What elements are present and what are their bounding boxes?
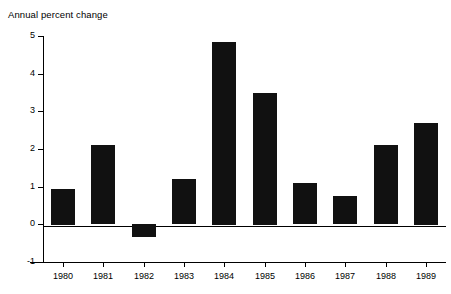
x-axis-label: 1989 bbox=[406, 271, 446, 281]
bar bbox=[333, 196, 357, 224]
x-axis-tick bbox=[386, 262, 387, 267]
x-axis-tick bbox=[305, 262, 306, 267]
y-axis-tick bbox=[38, 224, 43, 225]
y-axis-tick bbox=[38, 36, 43, 37]
bar bbox=[374, 145, 398, 224]
x-axis-label: 1985 bbox=[245, 271, 285, 281]
x-axis-tick bbox=[144, 262, 145, 267]
y-axis-label: 3 bbox=[10, 106, 35, 115]
x-axis-tick bbox=[345, 262, 346, 267]
x-axis-label: 1982 bbox=[124, 271, 164, 281]
x-axis-label: 1983 bbox=[164, 271, 204, 281]
x-axis-label: 1984 bbox=[204, 271, 244, 281]
bar bbox=[91, 145, 115, 224]
bar bbox=[51, 189, 75, 225]
y-axis-tick bbox=[38, 111, 43, 112]
x-axis-label: 1980 bbox=[43, 271, 83, 281]
x-axis-tick bbox=[265, 262, 266, 267]
y-axis-label: 1 bbox=[10, 182, 35, 191]
x-axis-tick bbox=[103, 262, 104, 267]
x-axis-tick bbox=[426, 262, 427, 267]
bar bbox=[132, 224, 156, 237]
bar bbox=[414, 123, 438, 225]
y-axis-tick bbox=[38, 149, 43, 150]
y-axis-tick bbox=[38, 74, 43, 75]
y-axis-label: 5 bbox=[10, 31, 35, 40]
x-axis-label: 1981 bbox=[83, 271, 123, 281]
bar bbox=[172, 179, 196, 224]
x-axis-tick bbox=[184, 262, 185, 267]
y-axis-label: 2 bbox=[10, 144, 35, 153]
bar bbox=[212, 42, 236, 225]
bar bbox=[293, 183, 317, 224]
chart-title: Annual percent change bbox=[8, 9, 108, 20]
x-axis-tick bbox=[224, 262, 225, 267]
x-axis-tick bbox=[63, 262, 64, 267]
x-axis-label: 1988 bbox=[366, 271, 406, 281]
y-axis-tick bbox=[38, 262, 43, 263]
y-axis-label: 0 bbox=[10, 219, 35, 228]
y-axis-label: -1 bbox=[10, 257, 35, 266]
y-axis-label: 4 bbox=[10, 69, 35, 78]
category-axis-line bbox=[30, 262, 446, 263]
value-axis-line bbox=[43, 36, 44, 262]
x-axis-label: 1986 bbox=[285, 271, 325, 281]
bar-chart-figure: Annual percent change 543210-1 198019811… bbox=[0, 0, 451, 294]
x-axis-label: 1987 bbox=[325, 271, 365, 281]
zero-baseline bbox=[43, 226, 446, 227]
y-axis-tick bbox=[38, 187, 43, 188]
bar bbox=[253, 93, 277, 225]
